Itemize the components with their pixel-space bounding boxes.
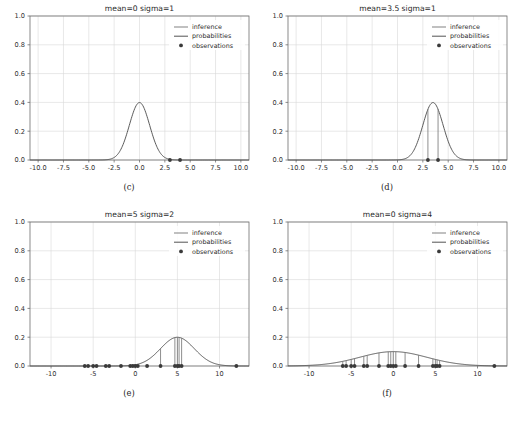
legend-dot-swatch <box>437 44 441 48</box>
observation-point <box>234 364 238 368</box>
legend-label: observations <box>192 248 234 256</box>
y-tick-label: 0.8 <box>15 247 26 255</box>
subplot-e: mean=5 sigma=2-10-505100.00.20.40.60.81.… <box>0 206 258 417</box>
observation-point <box>86 364 90 368</box>
observation-point <box>417 364 421 368</box>
observation-point <box>159 364 163 368</box>
y-tick-label: 0.0 <box>15 156 26 164</box>
y-tick-label: 0.8 <box>15 41 26 49</box>
subplot-c-svg: mean=0 sigma=1-10.0-7.5-5.0-2.50.02.55.0… <box>0 0 258 211</box>
legend: inferenceprobabilitiesobservations <box>169 20 245 50</box>
x-tick-label: 10 <box>215 370 223 378</box>
x-tick-label: 10.0 <box>492 164 507 172</box>
observation-point <box>95 364 99 368</box>
observation-point <box>145 364 149 368</box>
legend-label: inference <box>450 23 480 31</box>
legend-label: observations <box>192 42 234 50</box>
x-tick-label: -5 <box>90 370 97 378</box>
subplot-c: mean=0 sigma=1-10.0-7.5-5.0-2.50.02.55.0… <box>0 0 258 211</box>
legend: inferenceprobabilitiesobservations <box>169 226 245 256</box>
y-tick-label: 1.0 <box>15 218 26 226</box>
legend-dot-swatch <box>179 250 183 254</box>
x-tick-label: -5.0 <box>82 164 95 172</box>
y-tick-label: 0.4 <box>15 305 26 313</box>
y-tick-label: 0.2 <box>15 128 26 136</box>
x-tick-label: -2.5 <box>108 164 121 172</box>
y-tick-label: 1.0 <box>15 12 26 20</box>
x-tick-label: -10.0 <box>30 164 47 172</box>
observation-point <box>353 364 357 368</box>
legend-label: observations <box>450 248 492 256</box>
chart-title: mean=0 sigma=1 <box>105 4 174 13</box>
legend-label: inference <box>192 229 222 237</box>
x-tick-label: 0 <box>391 370 395 378</box>
subplot-e-svg: mean=5 sigma=2-10-505100.00.20.40.60.81.… <box>0 206 258 417</box>
caption-f: (f) <box>258 388 516 398</box>
x-tick-label: 2.5 <box>418 164 429 172</box>
legend-dot-swatch <box>437 250 441 254</box>
observation-point <box>394 364 398 368</box>
observation-point <box>91 364 95 368</box>
x-tick-label: 0.0 <box>134 164 145 172</box>
observation-point <box>426 158 430 162</box>
x-tick-label: -10.0 <box>288 164 305 172</box>
legend-label: observations <box>450 42 492 50</box>
x-tick-label: 2.5 <box>160 164 171 172</box>
observation-point <box>365 364 369 368</box>
subplot-f-svg: mean=0 sigma=4-10-505100.00.20.40.60.81.… <box>258 206 516 417</box>
y-tick-label: 0.6 <box>15 276 26 284</box>
subplot-f: mean=0 sigma=4-10-505100.00.20.40.60.81.… <box>258 206 516 417</box>
x-tick-label: 10 <box>473 370 481 378</box>
observation-point <box>104 364 108 368</box>
chart-title: mean=5 sigma=2 <box>105 210 174 219</box>
caption-c: (c) <box>0 182 258 192</box>
observation-point <box>492 364 496 368</box>
x-tick-label: 0 <box>133 370 137 378</box>
legend-label: probabilities <box>192 238 232 246</box>
chart-title: mean=0 sigma=4 <box>363 210 432 219</box>
x-tick-label: 7.5 <box>468 164 479 172</box>
observation-point <box>362 364 366 368</box>
x-tick-label: -5 <box>348 370 355 378</box>
x-tick-label: 5.0 <box>443 164 454 172</box>
y-tick-label: 1.0 <box>273 218 284 226</box>
observation-point <box>344 364 348 368</box>
y-tick-label: 0.0 <box>273 156 284 164</box>
legend-dot-swatch <box>179 44 183 48</box>
y-tick-label: 0.0 <box>15 362 26 370</box>
caption-d: (d) <box>258 182 516 192</box>
y-tick-label: 0.6 <box>15 70 26 78</box>
observation-point <box>377 364 381 368</box>
legend-label: probabilities <box>450 32 490 40</box>
observation-point <box>341 364 345 368</box>
observation-point <box>83 364 87 368</box>
observation-point <box>403 364 407 368</box>
observation-point <box>178 158 182 162</box>
y-tick-label: 0.2 <box>273 334 284 342</box>
chart-title: mean=3.5 sigma=1 <box>359 4 436 13</box>
x-tick-label: -5.0 <box>340 164 353 172</box>
y-tick-label: 0.8 <box>273 41 284 49</box>
x-tick-label: 5.0 <box>185 164 196 172</box>
y-tick-label: 0.2 <box>273 128 284 136</box>
x-tick-label: 0.0 <box>392 164 403 172</box>
legend-label: probabilities <box>192 32 232 40</box>
y-tick-label: 0.4 <box>273 99 284 107</box>
legend: inferenceprobabilitiesobservations <box>427 226 503 256</box>
observation-point <box>438 364 442 368</box>
x-tick-label: -7.5 <box>315 164 328 172</box>
y-tick-label: 0.4 <box>15 99 26 107</box>
observation-point <box>119 364 123 368</box>
y-tick-label: 0.6 <box>273 70 284 78</box>
subplot-d-svg: mean=3.5 sigma=1-10.0-7.5-5.0-2.50.02.55… <box>258 0 516 211</box>
subplot-d: mean=3.5 sigma=1-10.0-7.5-5.0-2.50.02.55… <box>258 0 516 211</box>
y-tick-label: 0.4 <box>273 305 284 313</box>
x-tick-label: 5 <box>433 370 437 378</box>
y-tick-label: 1.0 <box>273 12 284 20</box>
legend-label: inference <box>192 23 222 31</box>
x-tick-label: 7.5 <box>210 164 221 172</box>
x-tick-label: -10 <box>304 370 315 378</box>
legend-label: inference <box>450 229 480 237</box>
x-tick-label: 10.0 <box>234 164 249 172</box>
observation-point <box>349 364 353 368</box>
